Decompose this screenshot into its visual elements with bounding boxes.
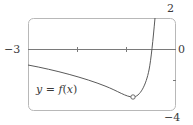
local-minimum-marker <box>131 95 135 99</box>
chart-plot <box>0 0 193 125</box>
function-label-equals: = <box>42 83 58 96</box>
y-min-label: −4 <box>164 112 180 123</box>
x-min-label: −3 <box>4 44 20 55</box>
function-label: y = f(x) <box>36 83 77 96</box>
function-label-close-paren: ) <box>73 83 77 96</box>
y-max-label: 2 <box>167 3 174 14</box>
x-max-label: 0 <box>178 44 185 55</box>
